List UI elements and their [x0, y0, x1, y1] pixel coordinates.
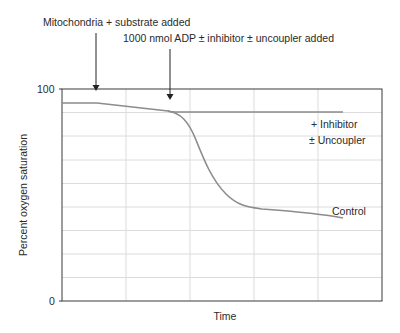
arrow-down-icon [93, 85, 100, 91]
arrow-adp-added [167, 49, 174, 100]
annotation-substrate-added: Mitochondria + substrate added [43, 16, 191, 28]
arrow-substrate-added [93, 33, 100, 91]
series-label-control: Control [332, 205, 366, 217]
inhibitor-uncoupler-curve [62, 103, 343, 112]
y-tick-100: 100 [37, 83, 55, 95]
arrow-down-icon [167, 94, 174, 100]
y-tick-0: 0 [49, 295, 55, 307]
x-axis-title: Time [214, 310, 237, 322]
oxygen-saturation-chart: Mitochondria + substrate added 1000 nmol… [0, 0, 400, 333]
series-label-uncoupler: ± Uncoupler [309, 134, 366, 146]
series-label-inhibitor: + Inhibitor [311, 118, 358, 130]
annotation-adp-added: 1000 nmol ADP ± inhibitor ± uncoupler ad… [123, 32, 334, 44]
y-axis-title: Percent oxygen saturation [17, 134, 29, 256]
